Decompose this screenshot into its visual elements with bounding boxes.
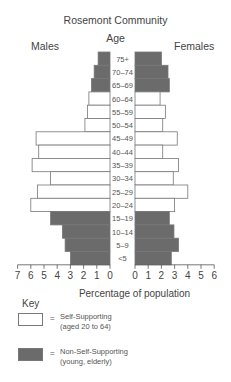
male-bar-14 (65, 238, 110, 251)
age-labels-group: 75+70–7465–6960–6455–5950–5445–4940–4435… (112, 55, 133, 264)
age-label: 70–74 (112, 68, 133, 77)
legend-sublabel: (young, elderly) (60, 357, 128, 367)
male-bar-12 (51, 212, 110, 225)
female-tick-label: 6 (211, 270, 217, 281)
female-bar-5 (135, 119, 163, 132)
age-label: 20–24 (112, 201, 133, 210)
legend-swatch-self-supporting (18, 313, 43, 326)
female-bar-0 (135, 52, 161, 65)
legend-label: Self-Supporting (60, 312, 112, 322)
female-tick-label: 1 (145, 270, 151, 281)
female-bar-15 (135, 252, 171, 265)
male-bar-7 (39, 145, 110, 158)
legend-label-non-self-supporting: Non-Self-Supporting (young, elderly) (60, 347, 128, 367)
age-label: 65–69 (112, 81, 133, 90)
legend-title: Key (22, 298, 39, 309)
male-bar-13 (62, 225, 110, 238)
female-bar-11 (135, 198, 175, 211)
male-bar-15 (70, 252, 110, 265)
bars-group (31, 52, 188, 265)
age-label: 75+ (116, 55, 129, 64)
male-tick-label: 5 (41, 270, 47, 281)
male-tick-label: 7 (15, 270, 21, 281)
female-tick-label: 3 (172, 270, 178, 281)
male-tick-label: 2 (81, 270, 87, 281)
male-bar-11 (31, 198, 110, 211)
age-label: 45–49 (112, 134, 133, 143)
population-pyramid: 75+70–7465–6960–6455–5950–5445–4940–4435… (0, 0, 231, 300)
female-bar-2 (135, 79, 169, 92)
age-label: 50–54 (112, 121, 133, 130)
female-bar-8 (135, 158, 179, 171)
male-bar-5 (85, 119, 110, 132)
legend-swatch-non-self-supporting (18, 348, 43, 361)
axes-group: 765432100123456 (15, 265, 218, 281)
male-bar-8 (32, 158, 110, 171)
female-bar-7 (135, 145, 163, 158)
legend-label-self-supporting: Self-Supporting (aged 20 to 64) (60, 312, 112, 332)
legend-equals: = (50, 349, 55, 358)
female-bar-1 (135, 65, 168, 78)
age-label: 40–44 (112, 148, 133, 157)
male-tick-label: 4 (54, 270, 60, 281)
female-bar-10 (135, 185, 188, 198)
male-bar-10 (37, 185, 110, 198)
male-bar-0 (98, 52, 110, 65)
female-tick-label: 4 (185, 270, 191, 281)
age-label: 30–34 (112, 174, 133, 183)
legend-equals: = (50, 314, 55, 323)
female-tick-label: 5 (198, 270, 204, 281)
age-label: 35–39 (112, 161, 133, 170)
male-tick-label: 1 (94, 270, 100, 281)
male-bar-1 (94, 65, 110, 78)
age-label: 25–29 (112, 188, 133, 197)
female-bar-9 (135, 172, 173, 185)
legend-label: Non-Self-Supporting (60, 347, 128, 357)
female-bar-6 (135, 132, 177, 145)
male-tick-label: 3 (68, 270, 74, 281)
male-bar-3 (89, 92, 110, 105)
age-label: <5 (118, 254, 127, 263)
male-bar-2 (92, 79, 110, 92)
age-label: 55–59 (112, 108, 133, 117)
female-bar-13 (135, 225, 174, 238)
legend-sublabel: (aged 20 to 64) (60, 322, 112, 332)
male-bar-9 (51, 172, 110, 185)
male-tick-label: 6 (28, 270, 34, 281)
male-bar-4 (88, 105, 110, 118)
age-label: 5–9 (116, 241, 129, 250)
male-bar-6 (36, 132, 110, 145)
age-label: 10–14 (112, 228, 133, 237)
female-bar-4 (135, 105, 165, 118)
age-label: 15–19 (112, 214, 133, 223)
female-tick-label: 2 (159, 270, 165, 281)
female-tick-label: 0 (132, 270, 138, 281)
female-bar-12 (135, 212, 169, 225)
age-label: 60–64 (112, 95, 133, 104)
male-tick-label: 0 (107, 270, 113, 281)
female-bar-3 (135, 92, 160, 105)
female-bar-14 (135, 238, 179, 251)
